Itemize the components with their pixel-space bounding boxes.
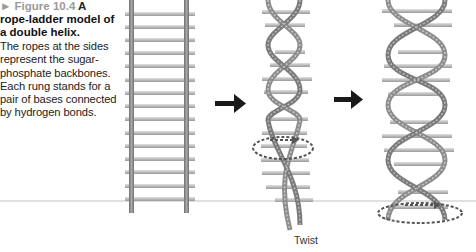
right-arrow-icon [334,90,363,109]
straight-ladder [125,0,195,213]
twisting-ladder [253,0,313,230]
double-helix [378,0,462,223]
dna-illustration [0,0,476,252]
right-arrow-icon [215,94,246,113]
twist-label: Twist [294,234,318,246]
